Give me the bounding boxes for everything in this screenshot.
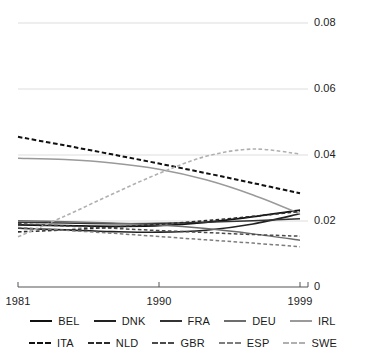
legend-line-swatch [219,342,241,344]
legend-line-swatch [88,342,110,344]
y-tick-label: 0 [314,280,320,292]
legend-label: ITA [57,337,74,349]
legend-line-swatch [152,342,174,344]
legend-label: DNK [122,315,146,327]
legend-item-bel[interactable]: BEL [30,315,79,327]
legend-label: GBR [180,337,204,349]
legend-item-swe[interactable]: SWE [283,337,337,349]
legend-item-ita[interactable]: ITA [29,337,74,349]
y-tick-label: 0.06 [314,82,336,94]
series-lines [18,137,300,247]
legend-item-dnk[interactable]: DNK [94,315,146,327]
gridlines [18,23,308,287]
legend-item-nld[interactable]: NLD [88,337,139,349]
series-line-ita [18,137,300,193]
y-tick-label: 0.02 [314,214,336,226]
series-line-irl [18,158,300,213]
y-tick-label: 0.04 [314,148,336,160]
legend-line-swatch [29,342,51,344]
legend-line-swatch [94,320,116,322]
legend-label: BEL [58,315,79,327]
x-tick-label: 1990 [134,295,184,307]
line-chart: 00.020.040.060.08 198119901999 BELDNKFRA… [0,0,366,359]
legend-label: SWE [311,337,337,349]
legend-item-fra[interactable]: FRA [160,315,211,327]
legend-line-swatch [224,320,246,322]
legend-label: ESP [247,337,270,349]
legend-item-irl[interactable]: IRL [290,315,336,327]
x-tick-label: 1981 [0,295,43,307]
legend-line-swatch [30,320,52,322]
legend-item-gbr[interactable]: GBR [152,337,204,349]
legend-label: DEU [252,315,276,327]
chart-legend: BELDNKFRADEUIRL ITANLDGBRESPSWE [0,310,366,354]
y-tick-label: 0.08 [314,16,336,28]
legend-label: FRA [188,315,211,327]
legend-label: NLD [116,337,139,349]
legend-item-esp[interactable]: ESP [219,337,270,349]
legend-row-solid: BELDNKFRADEUIRL [0,310,366,332]
legend-line-swatch [290,320,312,322]
legend-row-dashed: ITANLDGBRESPSWE [0,332,366,354]
legend-item-deu[interactable]: DEU [224,315,276,327]
x-tick-label: 1999 [275,295,325,307]
legend-line-swatch [160,320,182,322]
legend-line-swatch [283,342,305,344]
x-axis [18,282,308,287]
legend-label: IRL [318,315,336,327]
